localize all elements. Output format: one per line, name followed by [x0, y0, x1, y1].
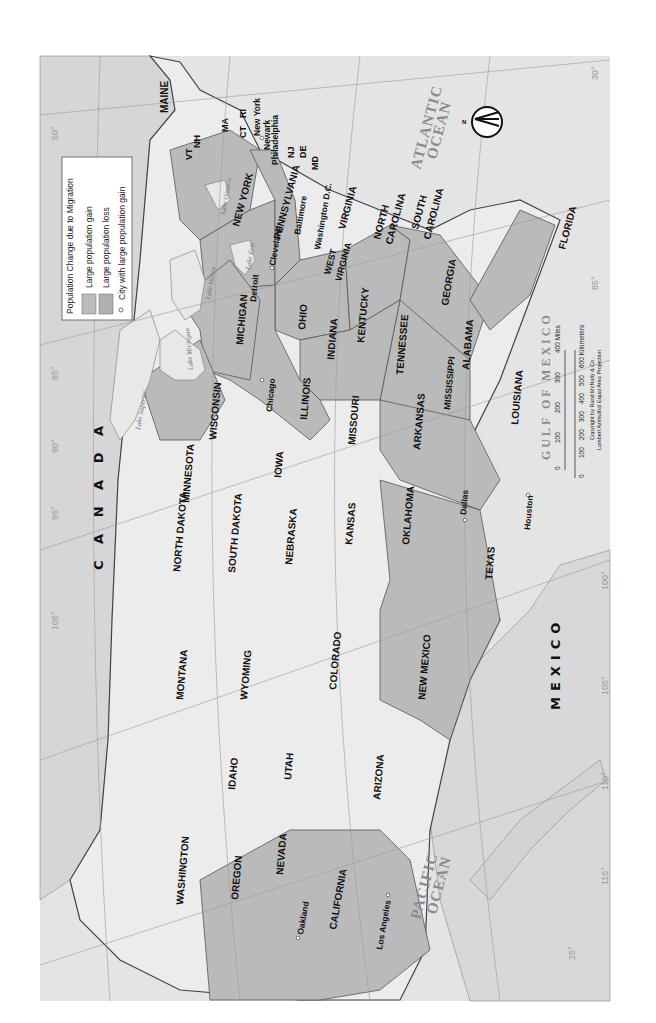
svg-text:500: 500 [578, 375, 585, 386]
svg-text:400: 400 [578, 393, 585, 404]
legend-loss-label: Large population loss [101, 207, 111, 288]
label-iowa: IOWA [272, 451, 285, 479]
city-marker-icon [296, 936, 300, 940]
svg-text:85°: 85° [590, 276, 600, 290]
svg-text:100°: 100° [600, 571, 610, 590]
label-md: MD [310, 156, 320, 170]
city-marker-icon [270, 266, 274, 270]
legend-city-symbol-icon [119, 308, 123, 312]
label-gulf-of-mexico: GULF OF MEXICO [539, 312, 553, 460]
compass-north-label: N [462, 119, 466, 125]
svg-text:105°: 105° [600, 676, 610, 695]
legend-city-label: City with large population gain [117, 186, 127, 300]
legend-title: Population Change due to Migration [65, 178, 75, 314]
svg-text:95°: 95° [50, 506, 60, 520]
copyright-text: Copyright by Rand McNally & Co. [589, 358, 595, 440]
label-ct: CT [238, 126, 248, 138]
svg-text:30°: 30° [590, 66, 600, 80]
svg-text:600 Kilometers: 600 Kilometers [578, 324, 585, 368]
legend-gain-label: Large population gain [84, 206, 94, 288]
svg-text:110°: 110° [600, 772, 610, 790]
label-nj: NJ [286, 146, 296, 158]
legend: Population Change due to Migration Large… [62, 157, 132, 320]
svg-text:100: 100 [554, 432, 561, 443]
legend-swatch-loss [99, 294, 113, 314]
svg-text:0: 0 [554, 466, 561, 470]
svg-text:85°: 85° [50, 366, 60, 380]
label-ma: MA [220, 118, 230, 132]
svg-text:300: 300 [578, 411, 585, 422]
label-mexico: MEXICO [548, 617, 563, 710]
legend-swatch-gain [82, 294, 96, 314]
svg-text:25°: 25° [567, 946, 577, 960]
svg-text:50°: 50° [50, 126, 60, 140]
us-migration-map: Population Change due to Migration Large… [0, 0, 656, 1023]
svg-text:90°: 90° [50, 439, 60, 453]
svg-text:200: 200 [554, 402, 561, 413]
label-utah: UTAH [282, 752, 295, 780]
label-canada: C A N A D A [91, 420, 106, 570]
label-ri: RI [238, 109, 248, 118]
svg-text:115°: 115° [600, 867, 610, 885]
city-new-york: New York [252, 98, 262, 136]
label-maine: MAINE [159, 80, 170, 113]
svg-text:0: 0 [578, 474, 585, 478]
svg-text:105°: 105° [50, 611, 60, 630]
label-ohio: OHIO [296, 304, 309, 331]
svg-text:100: 100 [578, 447, 585, 458]
svg-text:400 Miles: 400 Miles [554, 324, 561, 353]
label-de: DE [298, 145, 308, 158]
label-vt: VT [184, 148, 194, 160]
city-marker-icon [463, 518, 467, 522]
city-marker-icon [386, 893, 390, 897]
svg-text:300: 300 [554, 372, 561, 383]
city-philadelphia: Philadelphia [270, 115, 280, 165]
label-nh: NH [192, 135, 202, 148]
svg-text:200: 200 [578, 429, 585, 440]
city-marker-icon [260, 378, 264, 382]
projection-text: Lambert Azimuthal Equal Area Projection [596, 350, 602, 450]
